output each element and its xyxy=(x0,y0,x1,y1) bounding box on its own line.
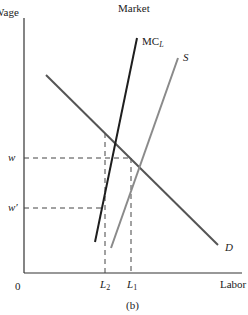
mc-label-sub: L xyxy=(159,40,163,49)
demand-label: D xyxy=(225,242,233,253)
x-axis-label: Labor xyxy=(220,279,246,290)
origin-label: 0 xyxy=(15,281,21,292)
l1-label: L1 xyxy=(127,279,137,292)
demand-curve xyxy=(46,75,218,245)
w-prime-label: w′ xyxy=(8,202,18,213)
l2-label: L2 xyxy=(100,279,110,292)
supply-label: S xyxy=(183,52,189,63)
figure-caption: (b) xyxy=(126,300,139,311)
w-label: w xyxy=(8,152,15,163)
supply-curve xyxy=(111,58,178,248)
l2-sub: 2 xyxy=(106,283,110,292)
mc-curve xyxy=(95,38,137,242)
l1-sub: 1 xyxy=(133,283,137,292)
market-diagram xyxy=(0,0,248,315)
mc-label-main: MC xyxy=(142,35,159,47)
mc-label: MCL xyxy=(142,36,164,49)
chart-title: Market xyxy=(118,3,150,14)
y-axis-label: Wage xyxy=(0,7,19,18)
